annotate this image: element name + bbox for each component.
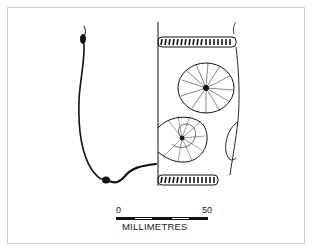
vessel-exterior-view: [158, 22, 239, 185]
scale-segment: [171, 217, 189, 220]
shell-motif-upper: [178, 63, 234, 113]
vessel-profile-section: [79, 26, 156, 184]
scale-segment: [116, 217, 134, 220]
scale-start-label: 0: [116, 206, 121, 215]
scale-unit-label: MILLIMETRES: [122, 221, 188, 232]
scale-segment: [190, 217, 208, 220]
scale-bar-segments: [116, 217, 208, 220]
vessel-drawing: [0, 0, 313, 252]
shell-motif-partial: [226, 122, 238, 160]
scale-segment: [153, 217, 171, 220]
scale-segment: [134, 217, 152, 220]
shell-motif-lower: [158, 116, 207, 162]
scale-end-label: 50: [202, 206, 212, 215]
